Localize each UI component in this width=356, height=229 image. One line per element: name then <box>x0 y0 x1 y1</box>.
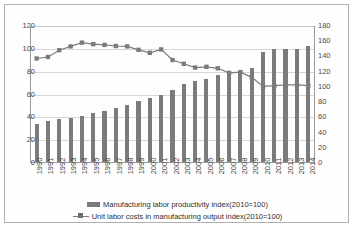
bar <box>57 119 61 162</box>
bar <box>227 72 231 162</box>
x-axis-tick: 1996 <box>98 165 109 197</box>
right-axis-tick: 140 <box>318 52 348 60</box>
right-axis-tick: 60 <box>318 113 348 121</box>
right-axis-tick: 0 <box>318 159 348 167</box>
bar <box>250 68 254 162</box>
x-axis-tick: 1990 <box>30 165 41 197</box>
bar <box>80 116 84 162</box>
bar-column <box>110 26 121 162</box>
x-axis-tick: 2005 <box>201 165 212 197</box>
bar <box>159 95 163 162</box>
bar <box>125 105 129 162</box>
x-axis-tick: 1998 <box>121 165 132 197</box>
right-axis-tick: 160 <box>318 37 348 45</box>
x-axis-tick: 2002 <box>167 165 178 197</box>
left-axis-tick: 60 <box>5 91 35 99</box>
bar-column <box>167 26 178 162</box>
bar-column <box>99 26 110 162</box>
x-axis-tick: 1992 <box>53 165 64 197</box>
left-axis-tick: 40 <box>5 113 35 121</box>
x-axis-tick: 2013 <box>292 165 303 197</box>
chart-container: 020406080100120 020406080100120140160180… <box>4 4 349 223</box>
bar-column <box>223 26 234 162</box>
bar-column <box>178 26 189 162</box>
x-axis-tick: 2008 <box>235 165 246 197</box>
legend-item-bar: Manufacturing labor productivity index(2… <box>5 198 350 210</box>
right-axis-tick: 100 <box>318 83 348 91</box>
bar-column <box>303 26 314 162</box>
bar-column <box>235 26 246 162</box>
x-axis-tick: 2014 <box>304 165 315 197</box>
bar-column <box>212 26 223 162</box>
bar <box>272 49 276 162</box>
x-axis-tick: 1991 <box>41 165 52 197</box>
bar-column <box>280 26 291 162</box>
x-axis-tick: 1995 <box>87 165 98 197</box>
bar-column <box>42 26 53 162</box>
bar <box>148 98 152 163</box>
left-axis-tick: 80 <box>5 68 35 76</box>
bar <box>283 49 287 162</box>
bar <box>46 121 50 162</box>
legend-item-line: Unit labor costs in manufacturing output… <box>5 210 350 222</box>
bar-column <box>155 26 166 162</box>
bar <box>69 118 73 162</box>
legend-label-bar: Manufacturing labor productivity index(2… <box>103 200 268 209</box>
bar-column <box>133 26 144 162</box>
x-axis-tick: 2003 <box>178 165 189 197</box>
x-axis-tick: 1993 <box>64 165 75 197</box>
x-axis-tick: 1999 <box>133 165 144 197</box>
bar-swatch-icon <box>87 202 100 207</box>
right-axis-tick: 80 <box>318 98 348 106</box>
bar <box>170 90 174 162</box>
legend-label-line: Unit labor costs in manufacturing output… <box>92 212 283 221</box>
left-axis-tick: 100 <box>5 45 35 53</box>
bar <box>35 124 39 162</box>
x-axis-tick: 2001 <box>155 165 166 197</box>
bar-column <box>76 26 87 162</box>
bar <box>306 46 310 162</box>
x-axis-labels: 1990199119921993199419951996199719981999… <box>30 165 315 197</box>
x-axis-tick: 2010 <box>258 165 269 197</box>
x-axis-tick: 2011 <box>270 165 281 197</box>
x-axis-tick: 1997 <box>110 165 121 197</box>
bar <box>136 101 140 162</box>
bar <box>261 52 265 162</box>
bar-column <box>144 26 155 162</box>
bar-column <box>246 26 257 162</box>
bar <box>238 71 242 162</box>
bar-column <box>269 26 280 162</box>
bar-column <box>189 26 200 162</box>
left-axis-tick: 120 <box>5 22 35 30</box>
bar-column <box>201 26 212 162</box>
x-axis-tick: 2009 <box>247 165 258 197</box>
x-axis-tick: 2000 <box>144 165 155 197</box>
left-axis-tick: 20 <box>5 136 35 144</box>
bar <box>216 75 220 162</box>
x-axis-tick-label: 2014 <box>309 158 317 175</box>
bar <box>114 108 118 162</box>
bar-column <box>65 26 76 162</box>
chart-legend: Manufacturing labor productivity index(2… <box>5 198 350 222</box>
bar-column <box>291 26 302 162</box>
right-axis-tick: 40 <box>318 129 348 137</box>
right-axis-tick: 120 <box>318 68 348 76</box>
x-axis-tick: 2006 <box>213 165 224 197</box>
bar <box>295 49 299 162</box>
line-swatch-icon <box>73 213 89 220</box>
x-axis-tick: 1994 <box>76 165 87 197</box>
x-axis-tick: 2004 <box>190 165 201 197</box>
bar <box>102 111 106 162</box>
bar-column <box>54 26 65 162</box>
right-axis-tick: 180 <box>318 22 348 30</box>
bar-column <box>88 26 99 162</box>
bar <box>182 84 186 162</box>
bar <box>91 113 95 162</box>
right-axis-tick: 20 <box>318 144 348 152</box>
bar-series <box>31 26 314 162</box>
plot-area <box>30 26 315 163</box>
bar <box>193 81 197 162</box>
bar-column <box>257 26 268 162</box>
x-axis-tick: 2012 <box>281 165 292 197</box>
bar <box>204 79 208 162</box>
